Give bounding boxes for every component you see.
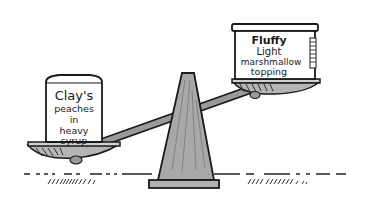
scale-drawing: Clay's peaches in heavy syrup Fluffy Li <box>0 0 370 202</box>
right-can-line-4: topping <box>251 66 287 77</box>
right-can-line-2: Light <box>257 46 282 57</box>
left-can-line-5: syrup <box>61 135 88 146</box>
ground-hatching-right <box>248 179 307 184</box>
ground-hatching-left <box>48 179 95 184</box>
balance-scale-illustration: Clay's peaches in heavy syrup Fluffy Li <box>0 0 370 202</box>
left-can-line-3: in <box>70 114 79 125</box>
right-can-marshmallow: Fluffy Light marshmallow topping <box>232 24 318 79</box>
left-can-line-1: Clay's <box>55 88 94 103</box>
left-can-peaches: Clay's peaches in heavy syrup <box>46 75 102 146</box>
left-can-line-2: peaches <box>54 103 94 114</box>
fulcrum <box>149 73 219 188</box>
